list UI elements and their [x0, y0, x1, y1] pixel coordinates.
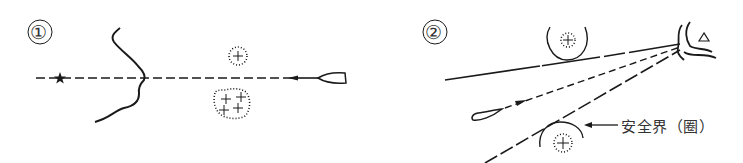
course-line: [505, 47, 680, 108]
safety-arc-upper: [547, 27, 587, 60]
clearing-line-upper: [445, 44, 680, 80]
rock-cross: [233, 51, 243, 61]
panel-1-label: ①: [30, 21, 47, 43]
clearing-line-lower: [485, 50, 680, 163]
diagram-canvas: [0, 0, 743, 163]
direction-arrow-1: [288, 76, 298, 81]
shoal-large-1: [214, 89, 250, 119]
panel-2: [423, 20, 716, 163]
boat-icon: [318, 73, 346, 84]
star-icon: [54, 72, 66, 84]
rock-cross-lower: [557, 137, 569, 149]
panel-1: [28, 20, 346, 122]
boat-icon-2: [472, 109, 502, 120]
safety-boundary-label: 安全界（圈）: [621, 115, 714, 136]
rock-cross-upper: [563, 35, 573, 45]
coastline-1: [95, 28, 145, 122]
panel-2-label: ②: [425, 21, 442, 43]
rock-crosses: [219, 92, 246, 115]
coastline-2: [678, 22, 716, 60]
direction-arrow-2: [515, 100, 527, 106]
pointer-arrowhead: [584, 122, 592, 128]
triangle-icon: [699, 33, 709, 41]
